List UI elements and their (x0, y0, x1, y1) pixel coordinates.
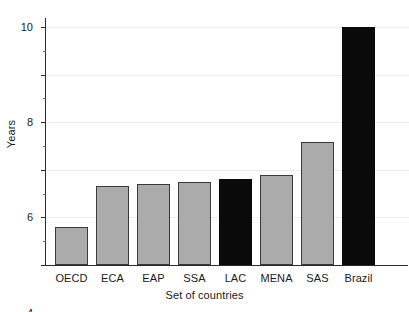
x-tick-label-lac: LAC (225, 272, 247, 284)
bar-lac (219, 179, 252, 265)
plot-area: 0246810 (46, 27, 386, 265)
bar-eca (96, 186, 129, 265)
x-tick-label-mena: MENA (260, 272, 292, 284)
x-tick-label-ssa: SSA (183, 272, 205, 284)
y-tick-label-8: 8 (27, 117, 33, 128)
x-tick-label-oecd: OECD (55, 272, 87, 284)
x-tick-label-sas: SAS (306, 272, 328, 284)
x-tick-label-eca: ECA (101, 272, 124, 284)
x-axis-line (45, 265, 408, 266)
y-tick-label-6: 6 (27, 212, 33, 223)
bar-eap (137, 184, 170, 265)
bar-oecd (55, 227, 88, 265)
y-tick-label-4: 4 (27, 307, 33, 312)
x-tick-label-brazil: Brazil (344, 272, 372, 284)
x-tick-label-eap: EAP (142, 272, 164, 284)
y-tick-major-0: 0 (41, 265, 46, 266)
y-tick-label-10: 10 (21, 22, 33, 33)
bar-series (46, 27, 386, 265)
bar-chart-figure: Years 0246810 OECDECAEAPSSALACMENASASBra… (0, 0, 409, 312)
bar-ssa (178, 182, 211, 265)
bar-sas (301, 142, 334, 265)
bar-brazil (342, 27, 375, 265)
x-axis-title: Set of countries (0, 289, 409, 301)
y-axis-title: Years (5, 104, 17, 164)
bar-mena (260, 175, 293, 265)
